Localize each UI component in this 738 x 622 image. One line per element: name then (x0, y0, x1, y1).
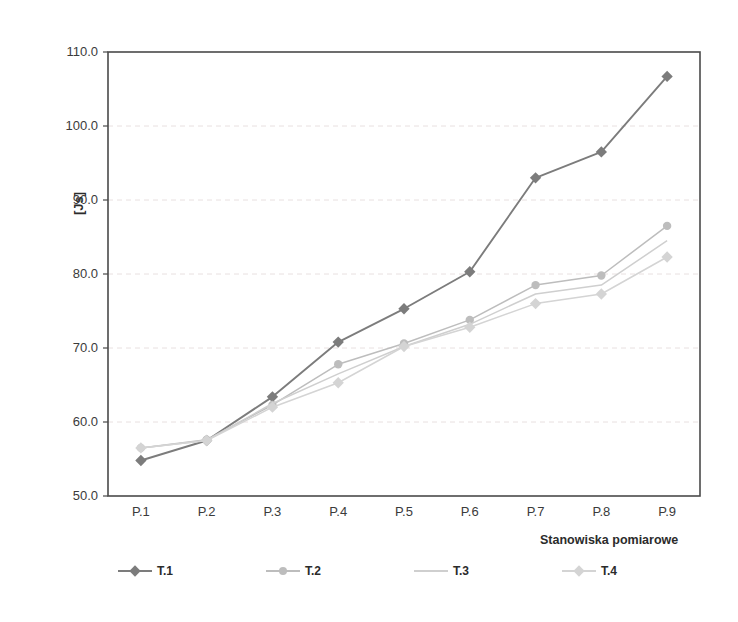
data-point-t-1-p-1 (135, 455, 146, 466)
x-tick-label: P.3 (242, 504, 302, 519)
legend-label: T.1 (157, 564, 173, 578)
series-lines (135, 71, 673, 466)
data-point-t-1-p-7 (530, 172, 541, 183)
chart-legend: T.1T.2T.3T.4 (108, 558, 700, 584)
x-tick-label: P.4 (308, 504, 368, 519)
data-point-t-4-p-4 (333, 377, 344, 388)
data-point-t-4-p-7 (530, 298, 541, 309)
data-point-t-4-p-6 (464, 322, 475, 333)
plot-area (0, 0, 738, 622)
y-tick-label: 60.0 (44, 414, 98, 429)
data-point-t-1-p-6 (464, 266, 475, 277)
data-point-t-1-p-5 (398, 303, 409, 314)
legend-swatch-t-2 (266, 565, 300, 577)
legend-label: T.4 (601, 564, 617, 578)
legend-item-t-2[interactable]: T.2 (256, 564, 404, 578)
data-point-t-2-p-7 (531, 281, 539, 289)
y-tick-label: 90.0 (44, 192, 98, 207)
data-point-t-4-p-2 (201, 435, 212, 446)
y-tick-label: 80.0 (44, 266, 98, 281)
grid-lines (103, 52, 700, 496)
y-tick-label: 70.0 (44, 340, 98, 355)
x-tick-label: P.2 (177, 504, 237, 519)
data-point-t-2-p-4 (334, 360, 342, 368)
x-tick-label: P.8 (571, 504, 631, 519)
legend-item-t-1[interactable]: T.1 (108, 564, 256, 578)
x-tick-label: P.6 (440, 504, 500, 519)
x-tick-label: P.9 (637, 504, 697, 519)
y-tick-label: 110.0 (44, 44, 98, 59)
legend-swatch-t-3 (414, 565, 448, 577)
x-tick-label: P.1 (111, 504, 171, 519)
data-point-t-2-p-9 (663, 222, 671, 230)
chart-container: [Js] 50.060.070.080.090.0100.0110.0 P.1P… (0, 0, 738, 622)
legend-marker-circle-icon (279, 567, 287, 575)
plot-frame (108, 52, 700, 496)
data-point-t-2-p-8 (597, 271, 605, 279)
series-line-t-4 (141, 257, 667, 448)
x-tick-label: P.7 (506, 504, 566, 519)
legend-swatch-t-4 (562, 565, 596, 577)
legend-item-t-3[interactable]: T.3 (404, 564, 552, 578)
y-tick-label: 50.0 (44, 488, 98, 503)
x-axis-title: Stanowiska pomiarowe (540, 533, 678, 547)
legend-swatch-t-1 (118, 565, 152, 577)
data-point-t-4-p-1 (135, 442, 146, 453)
legend-marker-diamond-icon (129, 565, 140, 576)
legend-marker-diamond-icon (573, 565, 584, 576)
legend-item-t-4[interactable]: T.4 (552, 564, 700, 578)
series-line-t-2 (141, 226, 667, 448)
legend-label: T.3 (453, 564, 469, 578)
data-point-t-4-p-8 (596, 288, 607, 299)
legend-line-icon (414, 570, 448, 572)
x-tick-label: P.5 (374, 504, 434, 519)
series-line-t-1 (141, 76, 667, 460)
legend-label: T.2 (305, 564, 321, 578)
y-tick-label: 100.0 (44, 118, 98, 133)
data-point-t-4-p-9 (661, 251, 672, 262)
